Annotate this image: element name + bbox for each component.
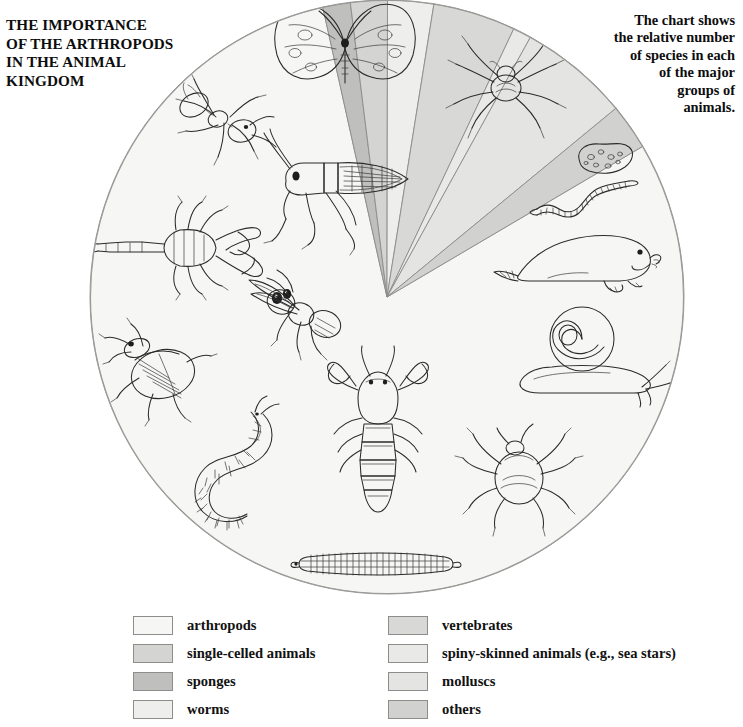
legend-item-vertebrates[interactable]: vertebrates <box>388 612 740 638</box>
legend-swatch-molluscs <box>388 672 428 691</box>
legend-column-right: vertebrates spiny-skinned animals (e.g.,… <box>388 612 740 724</box>
chart-page: THE IMPORTANCE OF THE ARTHROPODS IN THE … <box>0 0 743 727</box>
legend-label-spiny-skinned-animals: spiny-skinned animals (e.g., sea stars) <box>442 646 676 661</box>
legend-swatch-spiny-skinned-animals <box>388 644 428 663</box>
legend-swatch-single-celled-animals <box>133 644 173 663</box>
legend-column-left: arthropods single-celled animals sponges… <box>133 612 383 724</box>
legend-label-sponges: sponges <box>187 674 236 689</box>
pie-chart: .ink { fill:none; stroke:#2b2b2b; stroke… <box>0 0 743 610</box>
legend-swatch-others <box>388 700 428 719</box>
legend-item-arthropods[interactable]: arthropods <box>133 612 383 638</box>
legend-swatch-vertebrates <box>388 616 428 635</box>
legend-item-others[interactable]: others <box>388 696 740 722</box>
legend-label-others: others <box>442 702 481 717</box>
legend-item-worms[interactable]: worms <box>133 696 383 722</box>
legend-swatch-sponges <box>133 672 173 691</box>
legend-swatch-arthropods <box>133 616 173 635</box>
legend-label-molluscs: molluscs <box>442 674 496 689</box>
legend-label-worms: worms <box>187 702 229 717</box>
legend-label-vertebrates: vertebrates <box>442 618 513 633</box>
chart-legend: arthropods single-celled animals sponges… <box>0 612 743 727</box>
legend-item-molluscs[interactable]: molluscs <box>388 668 740 694</box>
legend-item-spiny-skinned-animals[interactable]: spiny-skinned animals (e.g., sea stars) <box>388 640 740 666</box>
legend-label-single-celled-animals: single-celled animals <box>187 646 316 661</box>
legend-item-sponges[interactable]: sponges <box>133 668 383 694</box>
legend-swatch-worms <box>133 700 173 719</box>
legend-label-arthropods: arthropods <box>187 618 256 633</box>
legend-item-single-celled-animals[interactable]: single-celled animals <box>133 640 383 666</box>
